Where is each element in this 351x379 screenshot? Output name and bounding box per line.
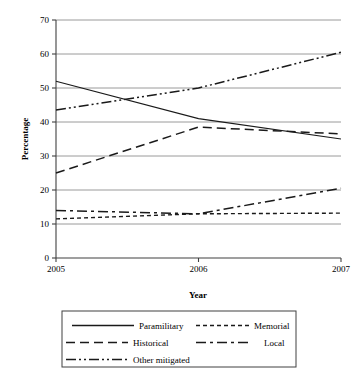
x-tick-label: 2005	[47, 264, 66, 274]
y-tick-label: 50	[40, 83, 50, 93]
y-axis-ticks	[52, 20, 56, 258]
y-tick-label: 40	[40, 117, 50, 127]
y-tick-label: 60	[40, 49, 50, 59]
y-axis-tick-labels: 010203040506070	[40, 15, 50, 263]
y-tick-label: 20	[40, 185, 50, 195]
x-axis-tick-labels: 200520062007	[47, 264, 351, 274]
legend-label-memorial: Memorial	[254, 321, 290, 331]
x-axis-ticks	[56, 258, 341, 262]
x-tick-label: 2007	[332, 264, 351, 274]
y-tick-label: 70	[40, 15, 50, 25]
y-axis-title: Percentage	[20, 118, 30, 160]
x-axis-title: Year	[189, 290, 207, 300]
chart-figure: 010203040506070 200520062007 Percentage …	[0, 0, 351, 379]
line-chart: 010203040506070 200520062007 Percentage …	[0, 0, 351, 379]
legend-label-local: Local	[264, 338, 285, 348]
x-tick-label: 2006	[190, 264, 209, 274]
y-tick-label: 0	[45, 253, 50, 263]
legend-label-paramilitary: Paramilitary	[139, 321, 184, 331]
plot-area-background	[56, 20, 341, 258]
y-tick-label: 10	[40, 219, 50, 229]
y-tick-label: 30	[40, 151, 50, 161]
legend-label-historical: Historical	[133, 338, 169, 348]
legend-label-other-mitigated: Other mitigated	[133, 355, 190, 365]
